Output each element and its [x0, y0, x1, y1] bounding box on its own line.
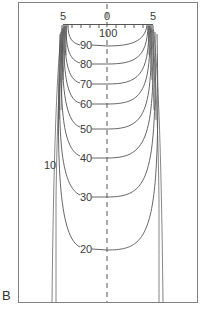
- contour-label-20: 20: [80, 243, 92, 255]
- contour-label-90: 90: [80, 39, 92, 51]
- panel-label: B: [2, 288, 11, 303]
- contour-label-10: 10: [44, 159, 56, 171]
- ruler-right-label: 5: [150, 10, 156, 22]
- contour-label-60: 60: [80, 98, 92, 110]
- ruler-left-label: 5: [60, 10, 66, 22]
- contour-label-50: 50: [80, 123, 92, 135]
- contour-lines: [58, 25, 157, 250]
- contour-label-100: 100: [99, 27, 117, 39]
- isodose-diagram: 5 0 5 100 90 80: [0, 0, 203, 313]
- contour-label-80: 80: [80, 58, 92, 70]
- contour-label-40: 40: [80, 152, 92, 164]
- contour-label-30: 30: [80, 191, 92, 203]
- ruler-center-label: 0: [104, 10, 110, 22]
- frame: [18, 2, 198, 303]
- contour-label-70: 70: [80, 78, 92, 90]
